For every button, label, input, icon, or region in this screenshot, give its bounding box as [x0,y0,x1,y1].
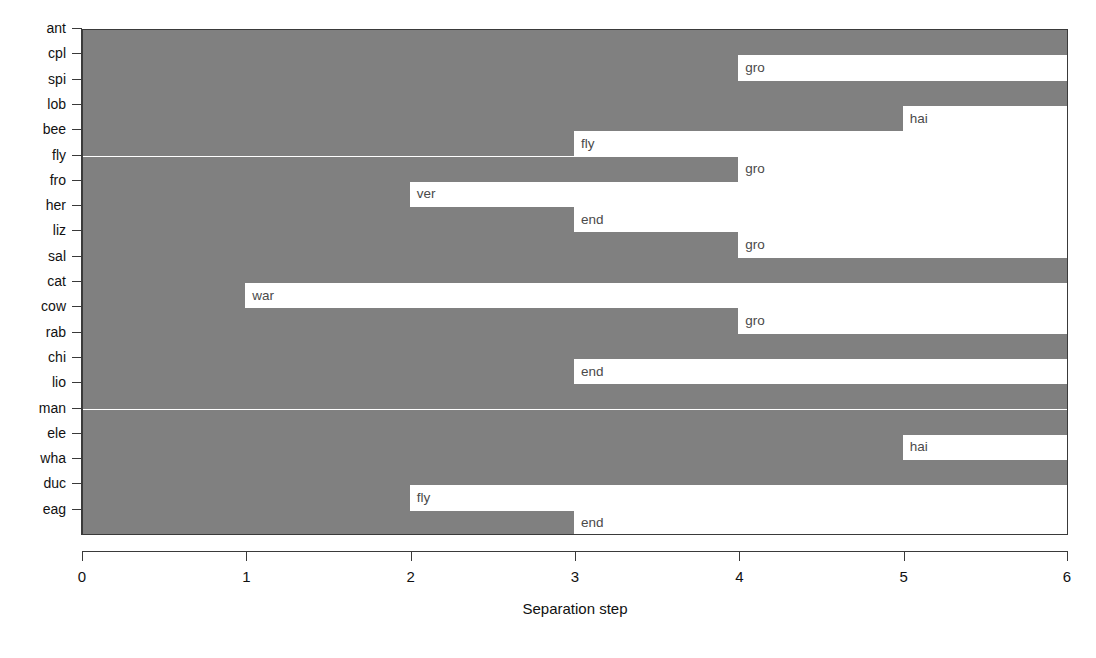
bar-row: gro [83,157,1067,182]
bar-row: end [83,359,1067,384]
x-tick-label: 3 [571,568,579,585]
x-tick-mark [246,551,247,561]
bar-segment-unseparated [83,207,576,232]
bar-segment-unseparated [83,258,1068,283]
y-tick-mark [72,483,82,484]
bar-segment-unseparated [83,30,1068,55]
bar-row [83,81,1067,106]
bar-segment-unseparated [83,460,1068,485]
y-tick-label: lio [52,374,66,391]
x-tick-mark [82,551,83,561]
bar-segment-separated [738,157,1067,182]
bar-segment-separated [738,55,1067,80]
y-tick-label: fro [50,172,66,189]
y-tick-label: chi [48,349,66,366]
y-tick-label: eag [43,501,66,518]
bar-segment-unseparated [83,410,1068,435]
x-tick-mark [411,551,412,561]
bar-segment-unseparated [83,182,412,207]
x-tick-mark [739,551,740,561]
y-tick-label: duc [43,475,66,492]
bar-row: hai [83,435,1067,460]
bar-segment-separated [410,485,1067,510]
bar-row [83,460,1067,485]
y-tick-mark [72,408,82,409]
bar-row: gro [83,232,1067,257]
x-tick-label: 0 [78,568,86,585]
y-tick-label: cow [41,298,66,315]
bar-row [83,30,1067,55]
y-axis: antcplspilobbeeflyfroherlizsalcatcowrabc… [0,29,82,535]
y-tick-mark [72,458,82,459]
bar-row [83,258,1067,283]
bar-segment-unseparated [83,157,740,182]
bar-segment-separated [410,182,1067,207]
y-tick-label: ele [47,425,66,442]
bar-segment-unseparated [83,283,247,308]
y-tick-mark [72,256,82,257]
bar-segment-separated [574,359,1067,384]
y-tick-label: sal [48,248,66,265]
bar-segment-separated [903,106,1067,131]
x-tick-mark [904,551,905,561]
x-tick-label: 6 [1063,568,1071,585]
y-tick-mark [72,53,82,54]
bar-row: fly [83,131,1067,156]
x-tick-label: 5 [899,568,907,585]
bar-row: ver [83,182,1067,207]
bar-segment-unseparated [83,106,905,131]
y-tick-mark [72,155,82,156]
bar-segment-separated [738,308,1067,333]
x-axis-title: Separation step [82,600,1068,617]
bar-row: end [83,511,1067,535]
bar-segment-separated [903,435,1067,460]
bar-segment-unseparated [83,384,1068,409]
y-tick-label: cat [47,273,66,290]
y-tick-label: bee [43,121,66,138]
y-tick-mark [72,79,82,80]
y-tick-label: spi [48,71,66,88]
y-tick-mark [72,332,82,333]
bar-segment-unseparated [83,131,576,156]
y-tick-mark [72,180,82,181]
x-tick-mark [1067,551,1068,561]
bar-row: fly [83,485,1067,510]
bar-row: end [83,207,1067,232]
bar-row: hai [83,106,1067,131]
x-tick-mark [575,551,576,561]
bar-row [83,410,1067,435]
y-tick-mark [72,230,82,231]
bar-row: gro [83,55,1067,80]
y-tick-mark [72,129,82,130]
y-tick-mark [72,509,82,510]
x-axis: 0123456 [82,551,1068,591]
y-tick-label: ant [47,20,66,37]
y-tick-mark [72,357,82,358]
y-tick-label: lob [47,96,66,113]
bar-segment-unseparated [83,55,740,80]
bar-segment-separated [245,283,1067,308]
y-tick-mark [72,306,82,307]
y-tick-mark [72,281,82,282]
bar-row: gro [83,308,1067,333]
bar-segment-unseparated [83,359,576,384]
bar-segment-separated [574,207,1067,232]
plot-area: grohaiflygroverendgrowargroendhaiflyend [82,29,1068,535]
y-tick-label: man [39,400,66,417]
bar-row [83,334,1067,359]
y-tick-mark [72,433,82,434]
bar-segment-separated [574,511,1067,535]
bar-segment-unseparated [83,334,1068,359]
x-tick-label: 1 [242,568,250,585]
y-tick-mark [72,104,82,105]
bar-segment-unseparated [83,232,740,257]
chart-figure: antcplspilobbeeflyfroherlizsalcatcowrabc… [0,0,1096,658]
bar-segment-unseparated [83,81,1068,106]
bar-segment-separated [738,232,1067,257]
bar-segment-unseparated [83,485,412,510]
x-tick-label: 4 [735,568,743,585]
bar-segment-unseparated [83,511,576,535]
y-tick-label: liz [53,222,66,239]
y-tick-label: fly [52,147,66,164]
y-tick-label: cpl [48,45,66,62]
